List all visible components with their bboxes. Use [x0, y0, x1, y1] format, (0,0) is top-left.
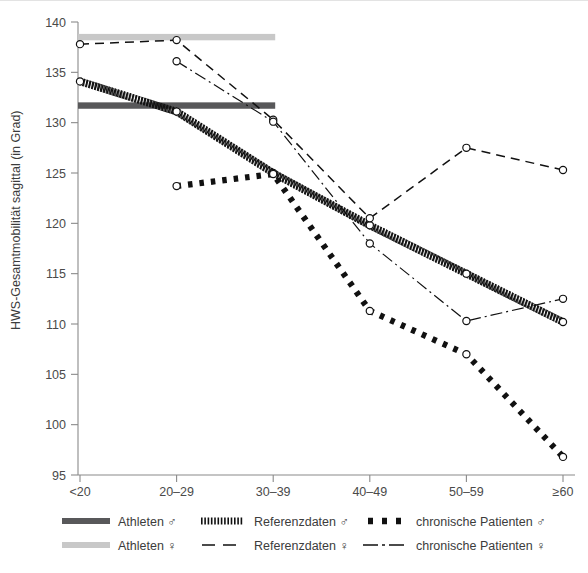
legend-swatch-solid-light-bar: [62, 542, 110, 548]
data-point-marker: [173, 37, 180, 44]
x-tick-label: 30–39: [256, 485, 291, 499]
legend-item: chronische Patienten ♀: [363, 539, 546, 553]
y-tick-label: 120: [45, 217, 66, 231]
data-point-marker: [173, 58, 180, 65]
series-2: [76, 78, 566, 326]
legend-item: Athleten ♀: [62, 539, 177, 553]
legend-item-label: Athleten ♀: [118, 539, 177, 553]
data-point-marker: [559, 318, 566, 325]
series-line-dashed: [80, 40, 563, 218]
series-3: [76, 37, 566, 222]
legend-item-label: chronische Patienten ♀: [416, 539, 546, 553]
legend-swatch-solid-dark-bar: [62, 518, 110, 524]
data-point-marker: [173, 108, 180, 115]
data-point-marker: [270, 118, 277, 125]
legend-item-label: Referenzdaten ♂: [254, 515, 349, 529]
plot-area: [76, 34, 566, 461]
legend-item: Referenzdaten ♀: [202, 539, 349, 553]
x-tick-label: 40–49: [352, 485, 387, 499]
y-axis: 95100105110115120125130135140: [45, 16, 78, 483]
y-tick-label: 115: [46, 267, 66, 281]
x-tick-label: ≥60: [553, 485, 574, 499]
legend-item-label: chronische Patienten ♂: [416, 515, 546, 529]
data-point-marker: [559, 453, 566, 460]
data-point-marker: [463, 351, 470, 358]
data-point-marker: [173, 182, 180, 189]
series-line-dash-dot: [177, 61, 563, 321]
data-point-marker: [366, 222, 373, 229]
legend-item-label: Referenzdaten ♀: [254, 539, 349, 553]
x-tick-label: 50–59: [449, 485, 484, 499]
data-point-marker: [366, 215, 373, 222]
x-axis: <2020–2930–3940–4950–59≥60: [69, 475, 575, 499]
data-point-marker: [366, 307, 373, 314]
y-tick-label: 125: [45, 167, 66, 181]
series-5: [173, 58, 567, 325]
y-tick-label: 100: [45, 418, 66, 432]
y-tick-label: 135: [45, 66, 66, 80]
data-point-marker: [366, 240, 373, 247]
chart-figure: 95100105110115120125130135140 <2020–2930…: [0, 0, 588, 573]
x-tick-label: <20: [69, 485, 90, 499]
data-point-marker: [76, 78, 83, 85]
data-point-marker: [463, 317, 470, 324]
y-tick-label: 110: [46, 318, 66, 332]
data-point-marker: [463, 270, 470, 277]
legend-item-label: Athleten ♂: [118, 515, 177, 529]
chart-legend: Athleten ♂Referenzdaten ♂chronische Pati…: [62, 515, 546, 553]
y-tick-label: 130: [45, 116, 66, 130]
data-point-marker: [76, 41, 83, 48]
series-4: [173, 170, 567, 460]
legend-item: chronische Patienten ♂: [368, 515, 546, 529]
legend-item: Referenzdaten ♂: [201, 515, 349, 529]
data-point-marker: [270, 170, 277, 177]
data-point-marker: [559, 166, 566, 173]
data-point-marker: [559, 295, 566, 302]
y-tick-label: 95: [52, 469, 66, 483]
data-point-marker: [463, 144, 470, 151]
y-tick-label: 140: [45, 16, 66, 30]
x-tick-label: 20–29: [159, 485, 194, 499]
y-tick-label: 105: [45, 368, 66, 382]
series-line-hatched: [80, 81, 563, 322]
legend-item: Athleten ♂: [62, 515, 177, 529]
y-axis-title: HWS-Gesamtmobilität sagittal (in Grad): [9, 110, 23, 330]
